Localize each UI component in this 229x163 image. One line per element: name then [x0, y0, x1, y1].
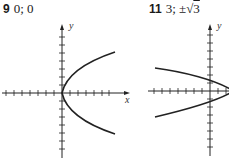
graph-9 [2, 24, 115, 158]
y-axis-label: y [216, 20, 222, 31]
graph-11 [148, 24, 229, 156]
graphs-canvas: y y x [0, 0, 229, 163]
y-axis-label: y [68, 20, 74, 31]
y-axis-arrow-icon [208, 24, 212, 30]
x-axis-label: x [124, 94, 130, 105]
y-axis-arrow-icon [60, 24, 64, 30]
